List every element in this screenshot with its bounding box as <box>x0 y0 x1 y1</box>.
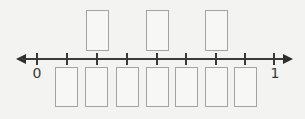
number-line-diagram: 0 1 <box>0 0 305 119</box>
label-zero: 0 <box>33 65 42 81</box>
answer-box-top-1[interactable] <box>86 10 109 51</box>
answer-box-top-2[interactable] <box>146 10 169 51</box>
tick-7 <box>244 53 246 65</box>
answer-box-bottom-2[interactable] <box>85 67 108 107</box>
tick-4 <box>156 53 158 65</box>
tick-6 <box>215 53 217 65</box>
answer-box-bottom-4[interactable] <box>146 67 169 107</box>
tick-0 <box>36 53 38 65</box>
answer-box-top-3[interactable] <box>205 10 228 51</box>
tick-2 <box>96 53 98 65</box>
label-one: 1 <box>271 65 280 81</box>
answer-box-bottom-7[interactable] <box>234 67 257 107</box>
tick-8 <box>273 53 275 65</box>
answer-box-bottom-6[interactable] <box>205 67 228 107</box>
tick-5 <box>185 53 187 65</box>
right-arrow-icon <box>283 54 293 64</box>
answer-box-bottom-1[interactable] <box>55 67 78 107</box>
tick-1 <box>66 53 68 65</box>
answer-box-bottom-5[interactable] <box>175 67 198 107</box>
tick-3 <box>126 53 128 65</box>
number-line <box>20 58 288 60</box>
answer-box-bottom-3[interactable] <box>116 67 139 107</box>
